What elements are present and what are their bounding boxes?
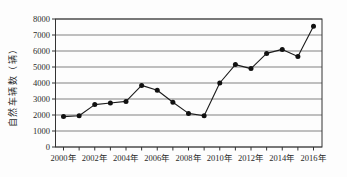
y-tick-label: 0	[46, 142, 50, 152]
data-point-marker	[77, 113, 82, 118]
x-tick-label: 2014年	[269, 153, 295, 163]
data-line	[64, 26, 314, 116]
data-point-marker	[108, 101, 113, 106]
data-point-marker	[155, 88, 160, 93]
data-point-marker	[61, 114, 66, 119]
line-chart: 0100020003000400050006000700080002000年20…	[0, 0, 347, 177]
x-tick-label: 2000年	[51, 153, 77, 163]
y-tick-label: 3000	[33, 94, 50, 104]
x-tick-label: 2004年	[113, 153, 139, 163]
y-tick-label: 6000	[33, 46, 50, 56]
x-tick-label: 2006年	[144, 153, 170, 163]
data-point-marker	[170, 100, 175, 105]
x-tick-label: 2008年	[176, 153, 202, 163]
data-point-marker	[217, 81, 222, 86]
y-tick-label: 2000	[33, 110, 50, 120]
data-point-marker	[186, 111, 191, 116]
data-point-marker	[202, 113, 207, 118]
y-tick-label: 1000	[33, 126, 50, 136]
x-tick-label: 2016年	[301, 153, 327, 163]
y-tick-label: 4000	[33, 78, 50, 88]
data-point-marker	[92, 102, 97, 107]
x-tick-label: 2012年	[238, 153, 264, 163]
data-point-marker	[280, 47, 285, 52]
y-axis-title: 自然车辆数（辆）	[6, 25, 20, 145]
line-chart-panel: 0100020003000400050006000700080002000年20…	[0, 0, 347, 177]
data-point-marker	[233, 62, 238, 67]
y-tick-label: 7000	[33, 30, 50, 40]
y-tick-label: 5000	[33, 62, 50, 72]
data-point-marker	[311, 24, 316, 29]
data-point-marker	[124, 99, 129, 104]
y-tick-label: 8000	[33, 14, 50, 24]
data-point-marker	[139, 83, 144, 88]
x-tick-label: 2002年	[82, 153, 108, 163]
x-tick-label: 2010年	[207, 153, 233, 163]
data-point-marker	[295, 54, 300, 59]
data-point-marker	[264, 51, 269, 56]
data-point-marker	[249, 66, 254, 71]
